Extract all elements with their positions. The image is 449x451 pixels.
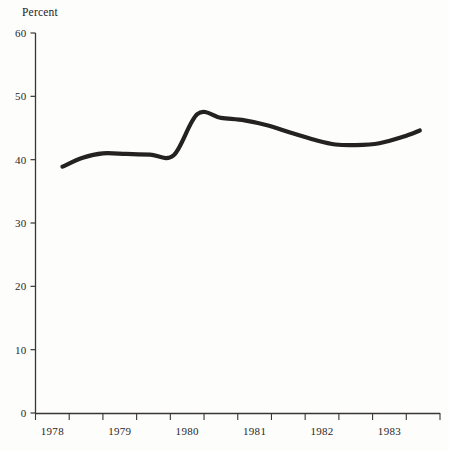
y-tick-label: 10 <box>15 344 27 356</box>
x-tick-label: 1982 <box>310 425 333 437</box>
x-axis-tick-labels: 197819791980198119821983 <box>41 425 401 437</box>
chart-figure: Percent 0102030405060 197819791980198119… <box>0 0 449 451</box>
line-chart-plot: 0102030405060 197819791980198119821983 <box>0 0 449 451</box>
y-tick-label: 60 <box>15 27 27 39</box>
x-tick-label: 1983 <box>378 425 401 437</box>
y-tick-label: 0 <box>21 407 27 419</box>
y-axis-ticks <box>31 33 36 413</box>
data-series-line <box>62 112 419 167</box>
x-tick-label: 1978 <box>41 425 64 437</box>
y-tick-label: 40 <box>15 154 27 166</box>
y-axis-tick-labels: 0102030405060 <box>15 27 27 419</box>
x-tick-label: 1979 <box>108 425 131 437</box>
y-tick-label: 20 <box>15 280 27 292</box>
x-tick-label: 1980 <box>176 425 199 437</box>
x-tick-label: 1981 <box>243 425 266 437</box>
y-tick-label: 50 <box>15 90 27 102</box>
y-tick-label: 30 <box>15 217 27 229</box>
